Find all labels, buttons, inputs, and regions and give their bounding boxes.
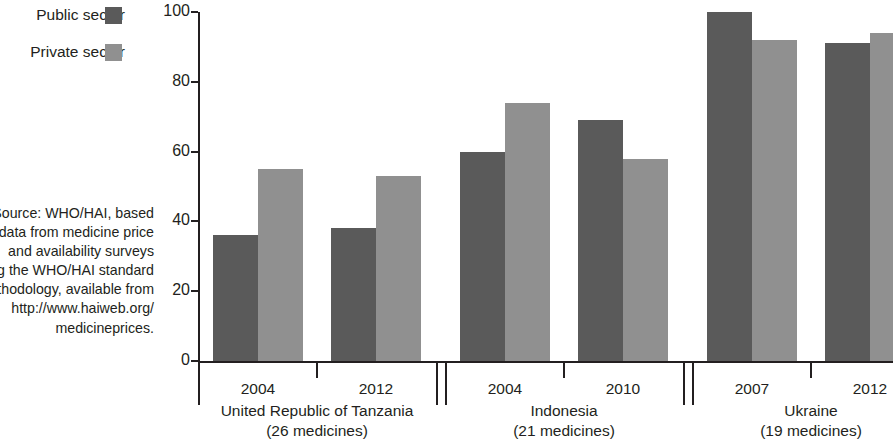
bar-private-sector	[752, 40, 797, 361]
x-axis-group-medicine-count: (26 medicines)	[198, 421, 436, 441]
y-axis-tick	[191, 360, 198, 362]
y-axis-tick-label: 0	[130, 352, 190, 368]
x-axis-year-label: 2004	[213, 380, 303, 398]
x-axis-group-country: United Republic of Tanzania	[198, 401, 436, 421]
y-axis-tick-label: 80	[130, 73, 190, 89]
x-axis-group-country: Ukraine	[692, 401, 893, 421]
bar-private-sector	[376, 176, 421, 361]
legend-swatch-private	[105, 44, 122, 61]
source-note-line: medicineprices.	[0, 319, 154, 338]
y-axis-tick	[191, 81, 198, 83]
x-axis-group-medicine-count: (21 medicines)	[445, 421, 683, 441]
x-axis-label-zone: 20042012United Republic of Tanzania(26 m…	[198, 363, 893, 444]
x-axis-group-country: Indonesia	[445, 401, 683, 421]
x-axis-year-label: 2012	[331, 380, 421, 398]
y-axis-tick-label: 20	[130, 282, 190, 298]
x-axis-group-separator	[692, 363, 694, 405]
bar-public-sector	[331, 228, 376, 361]
x-axis-year-label: 2007	[707, 380, 797, 398]
x-axis-group-label: Ukraine(19 medicines)	[692, 401, 893, 441]
bar-private-sector	[870, 33, 893, 361]
y-axis-tick	[191, 290, 198, 292]
y-axis-tick-label: 100	[130, 3, 190, 19]
bar-public-sector	[707, 12, 752, 361]
x-axis-year-separator-tick	[316, 363, 318, 378]
bar-private-sector	[505, 103, 550, 361]
y-axis-tick	[191, 220, 198, 222]
x-axis-group-label: United Republic of Tanzania(26 medicines…	[198, 401, 436, 441]
x-axis-group-separator	[445, 363, 447, 405]
y-axis-tick	[191, 151, 198, 153]
x-axis-group-separator	[198, 363, 200, 405]
source-note-line: http://www.haiweb.org/	[0, 299, 154, 318]
x-axis-year-separator-tick	[810, 363, 812, 378]
x-axis-group-medicine-count: (19 medicines)	[692, 421, 893, 441]
x-axis-year-separator-tick	[563, 363, 565, 378]
bar-public-sector	[213, 235, 258, 361]
source-note-line: and availability surveys	[0, 242, 154, 261]
bar-public-sector	[578, 120, 623, 361]
source-note-line: using the WHO/HAI standard	[0, 261, 154, 280]
x-axis-group-separator	[683, 363, 685, 405]
bar-private-sector	[623, 159, 668, 361]
y-axis-tick-label: 60	[130, 143, 190, 159]
x-axis-group-label: Indonesia(21 medicines)	[445, 401, 683, 441]
y-axis-tick-label: 40	[130, 212, 190, 228]
bar-public-sector	[825, 43, 870, 361]
x-axis-year-label: 2004	[460, 380, 550, 398]
y-axis-tick	[191, 11, 198, 13]
bar-public-sector	[460, 152, 505, 361]
bar-private-sector	[258, 169, 303, 361]
x-axis-group-separator	[436, 363, 438, 405]
legend-swatch-public	[105, 7, 122, 24]
y-axis-line	[198, 12, 200, 363]
x-axis-year-label: 2010	[578, 380, 668, 398]
x-axis-year-label: 2012	[825, 380, 893, 398]
bar-chart-plot-area: 020406080100	[198, 12, 893, 363]
